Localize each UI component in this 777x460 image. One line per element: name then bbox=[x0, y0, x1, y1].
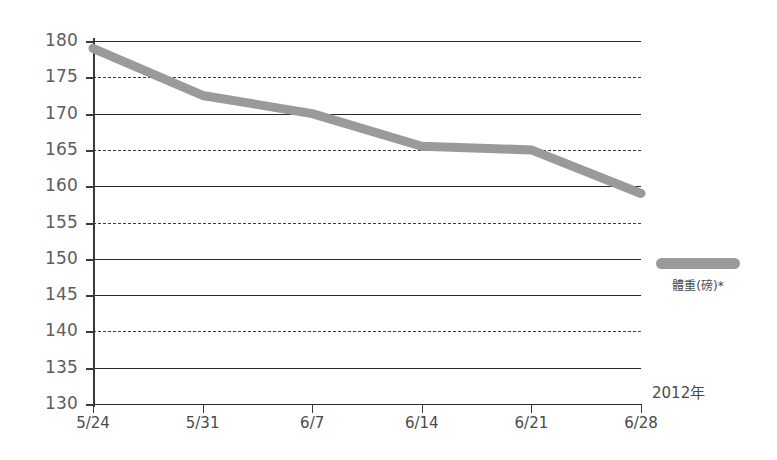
y-tick-label: 175 bbox=[24, 68, 78, 85]
plot-area bbox=[93, 41, 641, 404]
gridline-165 bbox=[93, 150, 641, 151]
x-tick-label: 6/7 bbox=[272, 416, 352, 431]
x-tick-label: 6/21 bbox=[491, 416, 571, 431]
x-tick-mark bbox=[641, 404, 642, 413]
y-tick-label: 165 bbox=[24, 141, 78, 158]
x-tick-mark bbox=[312, 404, 313, 413]
x-tick-label: 6/14 bbox=[382, 416, 462, 431]
gridline-170 bbox=[93, 114, 641, 115]
x-axis-line bbox=[93, 404, 642, 405]
gridline-155 bbox=[93, 223, 641, 224]
y-tick-mark bbox=[86, 223, 95, 225]
y-tick-label: 170 bbox=[24, 105, 78, 122]
gridline-175 bbox=[93, 77, 641, 78]
x-tick-mark bbox=[422, 404, 423, 413]
y-tick-mark bbox=[86, 41, 95, 43]
y-tick-label: 145 bbox=[24, 286, 78, 303]
legend-swatch-weight bbox=[656, 258, 740, 269]
gridline-150 bbox=[93, 259, 641, 260]
y-tick-mark bbox=[86, 331, 95, 333]
x-tick-mark bbox=[93, 404, 94, 413]
y-tick-mark bbox=[86, 295, 95, 297]
y-tick-mark bbox=[86, 186, 95, 188]
y-tick-label: 160 bbox=[24, 177, 78, 194]
gridline-140 bbox=[93, 331, 641, 332]
legend-label-weight: 體重(磅)* bbox=[652, 276, 744, 293]
y-tick-label: 135 bbox=[24, 359, 78, 376]
x-tick-mark bbox=[203, 404, 204, 413]
y-tick-mark bbox=[86, 114, 95, 116]
y-tick-label: 130 bbox=[24, 395, 78, 412]
year-annotation: 2012年 bbox=[652, 381, 705, 402]
y-tick-mark bbox=[86, 150, 95, 152]
gridline-135 bbox=[93, 368, 641, 369]
x-tick-label: 5/31 bbox=[163, 416, 243, 431]
y-tick-label: 150 bbox=[24, 250, 78, 267]
x-tick-label: 5/24 bbox=[53, 416, 133, 431]
y-tick-mark bbox=[86, 77, 95, 79]
weight-line-chart: 180 175 170 165 160 155 150 145 140 135 … bbox=[0, 0, 777, 460]
y-tick-label: 155 bbox=[24, 214, 78, 231]
y-tick-label: 140 bbox=[24, 322, 78, 339]
gridline-145 bbox=[93, 295, 641, 296]
y-tick-mark bbox=[86, 259, 95, 261]
gridline-180 bbox=[93, 41, 641, 42]
legend: 體重(磅)* bbox=[652, 258, 744, 293]
x-tick-mark bbox=[531, 404, 532, 413]
x-tick-label: 6/28 bbox=[601, 416, 681, 431]
y-tick-label: 180 bbox=[24, 32, 78, 49]
y-tick-mark bbox=[86, 368, 95, 370]
gridline-160 bbox=[93, 186, 641, 187]
